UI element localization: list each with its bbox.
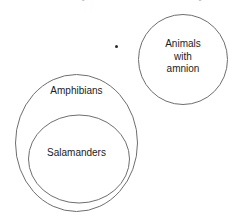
set-label-amnion-line2: with: [143, 51, 223, 64]
set-label-amnion-line3: amnion: [143, 63, 223, 76]
set-label-amnion: Animals with amnion: [143, 38, 223, 76]
venn-shapes: [0, 0, 239, 224]
bullet-point-marker: [115, 45, 118, 48]
set-label-salamanders: Salamanders: [27, 147, 126, 160]
set-label-amphibians: Amphibians: [27, 85, 126, 98]
venn-diagram-canvas: and so may be confident than the bay Amp…: [0, 0, 239, 224]
set-label-amnion-line1: Animals: [143, 38, 223, 51]
